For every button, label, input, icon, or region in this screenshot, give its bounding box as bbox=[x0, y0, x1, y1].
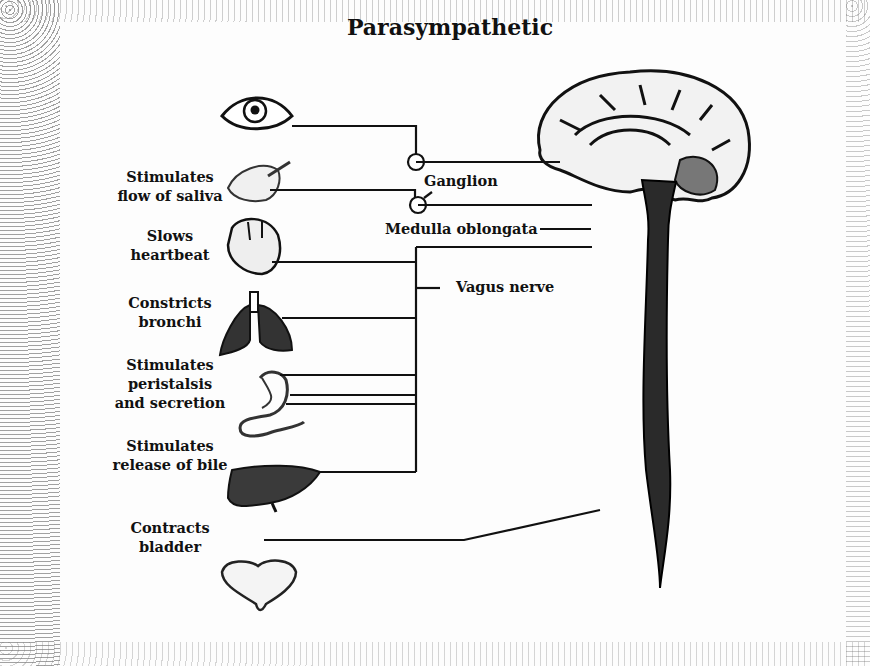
eye-icon bbox=[222, 98, 292, 129]
label-line: Slows bbox=[100, 226, 240, 245]
label-line: bronchi bbox=[100, 312, 240, 331]
spinal-cord-icon bbox=[642, 180, 676, 588]
label-bladder: Contracts bladder bbox=[100, 518, 240, 556]
label-line: Contracts bbox=[100, 518, 240, 537]
label-line: Stimulates bbox=[100, 167, 240, 186]
callout-medulla: Medulla oblongata bbox=[385, 220, 538, 237]
label-line: and secretion bbox=[100, 393, 240, 412]
label-peristalsis: Stimulates peristalsis and secretion bbox=[100, 355, 240, 412]
label-bronchi: Constricts bronchi bbox=[100, 293, 240, 331]
callout-vagus: Vagus nerve bbox=[456, 278, 554, 295]
diagram-canvas: Parasympathetic Stimulates flow of saliv… bbox=[0, 0, 870, 666]
callout-ganglion: Ganglion bbox=[424, 172, 498, 189]
label-line: Stimulates bbox=[100, 436, 240, 455]
label-bile: Stimulates release of bile bbox=[100, 436, 240, 474]
label-heart: Slows heartbeat bbox=[100, 226, 240, 264]
diagram-drawing bbox=[0, 0, 870, 666]
bladder-icon bbox=[222, 561, 296, 610]
label-line: Constricts bbox=[100, 293, 240, 312]
liver-icon bbox=[228, 466, 320, 512]
label-saliva: Stimulates flow of saliva bbox=[100, 167, 240, 205]
label-line: heartbeat bbox=[100, 245, 240, 264]
label-line: flow of saliva bbox=[100, 186, 240, 205]
diagram-title: Parasympathetic bbox=[300, 14, 600, 40]
label-line: peristalsis bbox=[100, 374, 240, 393]
label-line: bladder bbox=[100, 537, 240, 556]
label-line: Stimulates bbox=[100, 355, 240, 374]
label-line: release of bile bbox=[100, 455, 240, 474]
